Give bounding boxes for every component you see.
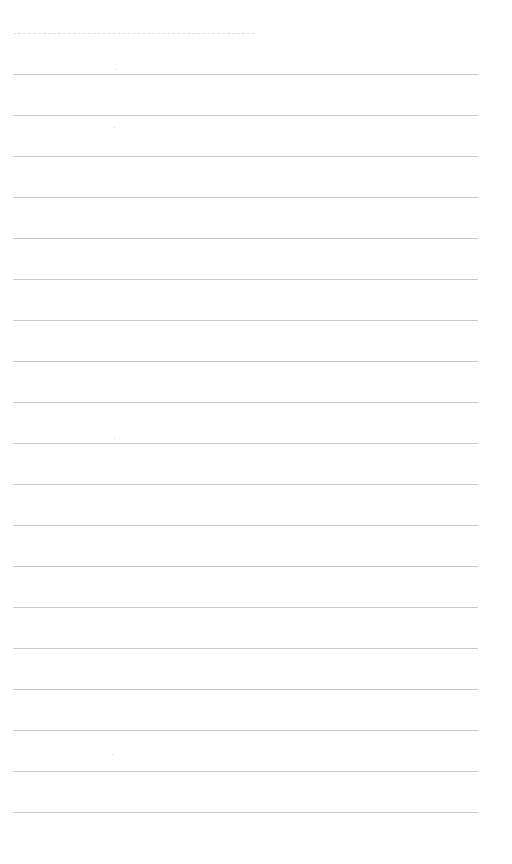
speck [114,127,115,128]
ruled-line [13,197,478,198]
page-header-text [10,0,500,12]
ruled-line [13,74,478,75]
ruled-line [13,566,478,567]
speck [114,438,115,439]
ruled-line [13,156,478,157]
ruled-line [13,648,478,649]
ruled-line [13,484,478,485]
speck [115,69,116,70]
header-dashed-rule [13,33,255,34]
ruled-line [13,730,478,731]
ruled-line [13,320,478,321]
ruled-line [13,279,478,280]
speck [112,754,113,755]
ruled-line [13,771,478,772]
ruled-line [13,443,478,444]
ruled-line [13,689,478,690]
ruled-line [13,361,478,362]
ruled-line [13,115,478,116]
lined-page [0,0,512,864]
ruled-line [13,525,478,526]
ruled-line [13,607,478,608]
ruled-line [13,812,478,813]
ruled-line [13,238,478,239]
page-footer-text [10,852,500,864]
ruled-line [13,402,478,403]
